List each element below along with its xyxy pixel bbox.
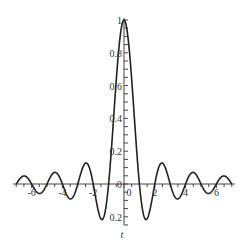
x-axis-label: t [121, 229, 124, 240]
y-tick-label: 0.2 [110, 146, 123, 157]
y-tick-label: 0.2 [110, 212, 123, 223]
x-tick-label: 2 [152, 187, 157, 198]
sinc-plot: -6-4-202460.200.20.40.60.81 t [0, 0, 250, 252]
y-tick-label: 0.4 [110, 113, 123, 124]
x-tick-label: -2 [89, 187, 97, 198]
x-tick-label: -4 [58, 187, 66, 198]
x-tick-label: 6 [214, 187, 219, 198]
x-tick-label: -6 [27, 187, 35, 198]
axes [13, 18, 235, 225]
y-tick-label: 0.8 [110, 48, 123, 59]
x-tick-label: 4 [183, 187, 188, 198]
x-tick-label: 0 [127, 187, 132, 198]
tick-labels: -6-4-202460.200.20.40.60.81 [27, 15, 218, 223]
y-tick-label: 0 [117, 179, 122, 190]
y-tick-label: 0.6 [110, 81, 123, 92]
y-tick-label: 1 [117, 15, 122, 26]
